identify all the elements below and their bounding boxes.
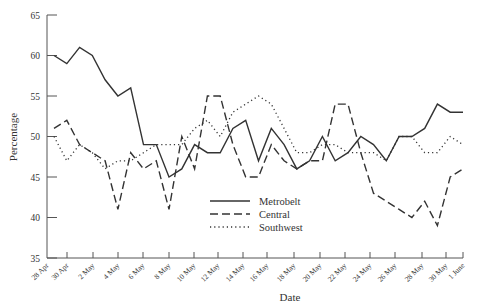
x-tick-label: 1 June (446, 261, 467, 282)
x-tick-label: 30 Apr (49, 261, 70, 282)
x-tick-label: 14 May (224, 261, 247, 284)
y-tick-label: 40 (31, 213, 41, 223)
y-tick-label: 35 (31, 254, 41, 264)
x-tick-label: 22 May (326, 261, 349, 284)
axes: 3540455055606528 Apr30 Apr2 May4 May6 Ma… (29, 11, 466, 284)
legend-label-southwest: Southwest (259, 222, 303, 233)
line-chart: 3540455055606528 Apr30 Apr2 May4 May6 Ma… (0, 0, 478, 307)
x-axis-title: Date (280, 291, 301, 303)
y-tick-label: 55 (31, 92, 41, 102)
series-line-southwest (54, 96, 463, 169)
y-tick-label: 65 (31, 11, 41, 21)
x-tick-label: 6 May (126, 261, 146, 281)
x-tick-label: 26 May (376, 261, 399, 284)
x-tick-label: 18 May (275, 261, 298, 284)
legend: MetrobeltCentralSouthwest (210, 196, 303, 233)
legend-label-metrobelt: Metrobelt (259, 196, 300, 207)
series-line-metrobelt (54, 47, 463, 177)
x-tick-label: 2 May (76, 261, 96, 281)
x-tick-label: 24 May (351, 261, 374, 284)
x-tick-label: 30 May (427, 261, 450, 284)
x-tick-label: 8 May (152, 261, 172, 281)
x-tick-label: 10 May (175, 261, 198, 284)
y-axis-title: Percentage (7, 113, 19, 161)
y-tick-label: 60 (31, 51, 41, 61)
y-tick-label: 45 (31, 173, 41, 183)
x-tick-label: 16 May (248, 261, 271, 284)
x-tick-label: 20 May (301, 261, 324, 284)
legend-label-central: Central (259, 209, 290, 220)
x-tick-label: 4 May (101, 261, 121, 281)
y-tick-label: 50 (31, 132, 41, 142)
x-tick-label: 12 May (199, 261, 222, 284)
x-tick-label: 28 Apr (29, 261, 50, 282)
x-tick-label: 28 May (403, 261, 426, 284)
